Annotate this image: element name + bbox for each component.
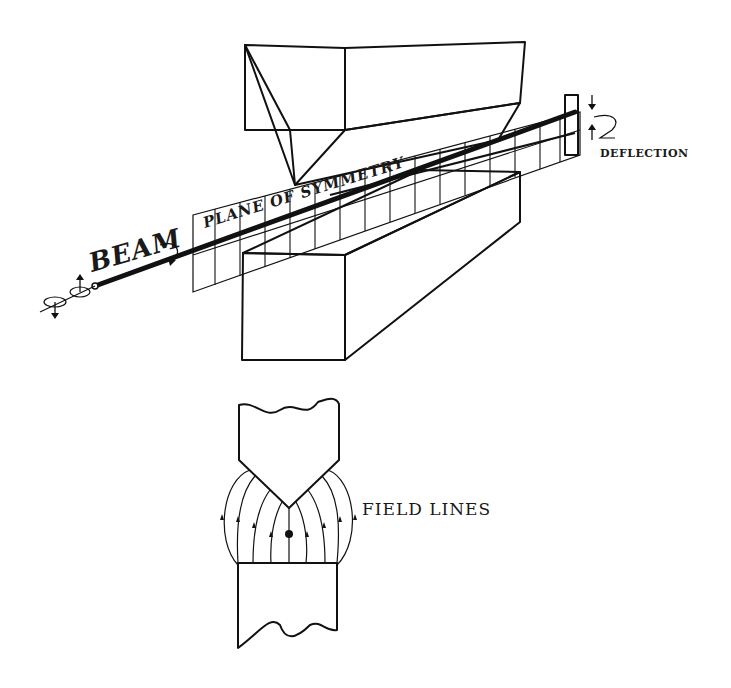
magnet-deflection-diagram: BEAM PLANE OF SYMMETRY DEFLECTION xyxy=(0,0,731,688)
field-lines-label: FIELD LINES xyxy=(362,499,491,519)
deflection-label: DEFLECTION xyxy=(600,147,689,160)
lower-view: FIELD LINES xyxy=(220,399,491,648)
field-lines xyxy=(224,470,352,565)
magnetic-moment-icon xyxy=(40,274,95,319)
upper-pole-cross-section xyxy=(239,399,339,508)
plane-of-symmetry-label: PLANE OF SYMMETRY xyxy=(200,153,407,232)
beam xyxy=(92,112,575,289)
detector-plate xyxy=(565,95,616,155)
upper-view: BEAM PLANE OF SYMMETRY DEFLECTION xyxy=(40,42,689,360)
lower-pole-cross-section xyxy=(238,563,337,648)
beam-cross-section xyxy=(285,530,293,538)
